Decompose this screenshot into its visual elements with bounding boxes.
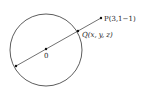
point-o-dot [45,48,47,50]
diagram-canvas: P(3,1−1) Q(x, y, z) 0 [0,0,148,89]
label-o: 0 [44,52,48,60]
point-q-dot [77,30,79,32]
point-r-dot [15,65,17,67]
line-p-through-center [16,18,101,66]
label-p: P(3,1−1) [104,15,136,23]
point-p-dot [100,17,102,19]
label-q: Q(x, y, z) [82,31,113,39]
